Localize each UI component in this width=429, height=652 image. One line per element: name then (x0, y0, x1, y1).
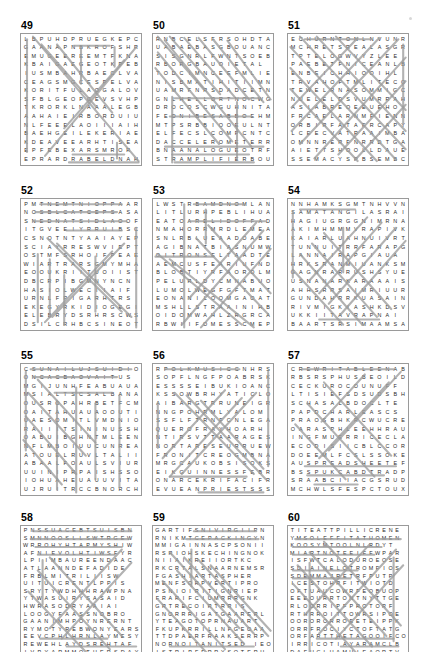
letter-cell: E (38, 217, 46, 226)
letter-cell (265, 633, 272, 641)
letter-cell: T (71, 542, 78, 550)
letter-cell: D (391, 468, 399, 477)
letter-cell: L (109, 104, 117, 113)
letter-cell: N (162, 147, 170, 156)
letter-cell: O (170, 269, 178, 278)
letter-cell: N (53, 217, 61, 226)
letter-cell: B (289, 320, 297, 329)
letter-cell: O (233, 425, 241, 434)
letter-cell: S (391, 408, 399, 417)
letter-cell: F (185, 87, 193, 96)
letter-cell: A (78, 542, 85, 550)
letter-cell: R (320, 286, 328, 295)
letter-cell: M (154, 460, 162, 469)
letter-cell: H (256, 112, 264, 121)
letter-cell: E (109, 78, 117, 87)
letter-cell: Y (217, 425, 225, 434)
letter-grid: TITEATTPILLICRENEYMSOLEFFITATHOMENKOOSYM… (287, 525, 409, 652)
letter-cell: R (297, 417, 305, 426)
letter-cell: C (383, 442, 391, 451)
letter-cell: R (344, 408, 352, 417)
letter-cell: P (391, 121, 399, 130)
letter-cell: O (185, 104, 193, 113)
letter-cell: M (101, 434, 109, 443)
letter-cell: C (241, 477, 249, 486)
letter-cell: E (116, 243, 124, 252)
letter-cell: M (46, 442, 54, 451)
letter-cell: B (61, 374, 69, 383)
letter-cell: A (360, 312, 368, 321)
letter-cell: N (178, 112, 186, 121)
letter-cell: S (225, 320, 233, 329)
letter-cell: I (360, 434, 368, 443)
letter-cell: D (264, 217, 272, 226)
letter-cell: M (368, 87, 376, 96)
letter-cell: S (233, 243, 241, 252)
letter-cell: E (256, 52, 264, 61)
letter-cell: C (93, 442, 101, 451)
letter-cell: S (352, 460, 360, 469)
letter-cell: T (336, 365, 344, 374)
letter-cell: A (233, 374, 241, 383)
letter-cell: T (69, 234, 77, 243)
letter-cell: N (119, 618, 126, 626)
letter-cell: E (61, 130, 69, 139)
letter-cell: U (43, 580, 50, 588)
letter-cell: S (119, 580, 126, 588)
letter-cell: F (77, 382, 85, 391)
letter-cell: N (185, 52, 193, 61)
letter-cell: U (30, 399, 38, 408)
letter-cell: E (154, 130, 162, 139)
letter-cell: S (209, 442, 217, 451)
letter-cell: A (297, 217, 305, 226)
letter-cell: S (109, 209, 117, 218)
puzzle-number-label: 51 (288, 20, 409, 31)
letter-cell: B (178, 243, 186, 252)
letter-cell: A (233, 477, 241, 486)
letter-cell: P (289, 408, 297, 417)
letter-cell: F (53, 295, 61, 304)
letter-cell: I (344, 477, 352, 486)
letter-cell: W (193, 286, 201, 295)
letter-cell: U (320, 217, 328, 226)
letter-cell: H (93, 138, 101, 147)
letter-cell: K (22, 87, 30, 96)
letter-cell: R (29, 542, 36, 550)
letter-cell: I (43, 557, 50, 565)
letter-cell: M (241, 451, 249, 460)
letter-cell: O (264, 277, 272, 286)
letter-cell: I (85, 200, 93, 209)
letter-cell: O (217, 61, 225, 70)
letter-cell: A (399, 434, 407, 443)
letter-cell: C (256, 312, 264, 321)
letter-cell: C (297, 485, 305, 494)
letter-cell: S (352, 485, 360, 494)
letter-cell: E (22, 155, 30, 164)
letter-cell: C (109, 69, 117, 78)
letter-cell: R (383, 217, 391, 226)
letter-cell: N (193, 87, 201, 96)
letter-cell: M (50, 557, 57, 565)
letter-cell: T (264, 121, 272, 130)
letter-cell: L (320, 52, 328, 61)
letter-cell: R (193, 209, 201, 218)
letter-cell: H (105, 641, 112, 649)
letter-cell: F (112, 550, 119, 558)
letter-cell: R (85, 226, 93, 235)
letter-cell: N (85, 434, 93, 443)
letter-cell: R (101, 112, 109, 121)
letter-cell: O (289, 121, 297, 130)
letter-cell: A (241, 277, 249, 286)
letter-cell: H (71, 588, 78, 596)
letter-cell: E (85, 78, 93, 87)
letter-cell (400, 626, 407, 634)
letter-cell: M (320, 451, 328, 460)
letter-cell: S (133, 626, 140, 634)
letter-cell: T (30, 451, 38, 460)
letter-cell: F (217, 155, 225, 164)
letter-cell: A (297, 61, 305, 70)
letter-cell: R (162, 451, 170, 460)
letter-cell: A (185, 460, 193, 469)
letter-cell: M (313, 303, 321, 312)
letter-cell: H (305, 200, 313, 209)
